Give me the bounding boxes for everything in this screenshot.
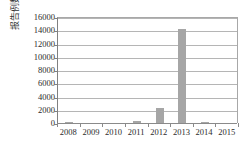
y-axis-tick-label: 6000 xyxy=(21,79,55,88)
y-axis-title: 报告例数 xyxy=(9,0,21,47)
bar xyxy=(178,29,186,123)
x-axis: 20082009201020112012201320142015 xyxy=(57,123,238,141)
y-axis-tick-labels: 0200040006000800010000120001400016000 xyxy=(21,13,55,123)
x-axis-tick-label: 2013 xyxy=(170,127,193,138)
x-axis-tickmark xyxy=(238,123,239,127)
y-axis-tick-label: 14000 xyxy=(21,26,55,35)
y-axis-tick-label: 4000 xyxy=(21,93,55,102)
y-axis-tick-label: 10000 xyxy=(21,53,55,62)
y-axis-tick-label: 2000 xyxy=(21,106,55,115)
bars-layer xyxy=(58,18,237,123)
x-axis-tick-label: 2009 xyxy=(80,127,103,138)
y-axis-tick-label: 0 xyxy=(21,119,55,128)
y-axis-tick-label: 8000 xyxy=(21,66,55,75)
x-axis-tick-label: 2010 xyxy=(102,127,125,138)
x-axis-tick-label: 2011 xyxy=(125,127,148,138)
plot-area xyxy=(57,17,238,123)
x-axis-tick-label: 2014 xyxy=(193,127,216,138)
x-axis-tick-label: 2012 xyxy=(148,127,171,138)
x-axis-tick-label: 2015 xyxy=(215,127,238,138)
bar-chart: 报告例数 02000400060008000100001200014000160… xyxy=(0,0,249,154)
y-axis-tick-label: 16000 xyxy=(21,13,55,22)
bar xyxy=(156,108,164,123)
x-axis-tick-label: 2008 xyxy=(57,127,80,138)
y-axis-tick-label: 12000 xyxy=(21,40,55,49)
